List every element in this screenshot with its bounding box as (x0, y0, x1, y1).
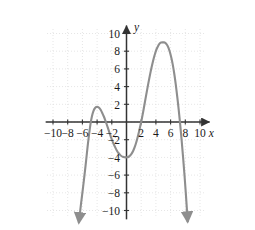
y-tick-label: −8 (108, 187, 120, 199)
curve-arrow-right (187, 213, 188, 222)
x-axis-label: x (208, 127, 215, 139)
graph-figure: −10−8−6−4−2246810108642−2−4−6−8−10 xy (0, 0, 255, 230)
coordinate-plane-plot: −10−8−6−4−2246810108642−2−4−6−8−10 xy (0, 0, 255, 230)
axis-name-labels: xy (133, 21, 215, 139)
y-tick-label: −6 (108, 169, 120, 181)
x-tick-label: 8 (182, 127, 188, 139)
x-tick-label: −10 (44, 127, 62, 139)
curve-arrow-left (79, 214, 80, 223)
x-tick-label: 4 (153, 127, 159, 139)
x-tick-label: −4 (91, 127, 103, 139)
y-tick-label: 10 (109, 28, 121, 40)
x-tick-label: 6 (168, 127, 174, 139)
y-tick-label: 6 (114, 63, 120, 75)
y-tick-label: 8 (114, 45, 120, 57)
x-tick-label: 2 (138, 127, 144, 139)
x-tick-label: −6 (76, 127, 88, 139)
y-tick-label: −4 (108, 152, 120, 164)
y-axis-label: y (133, 21, 140, 34)
x-tick-label: 10 (194, 127, 206, 139)
y-tick-label: −10 (102, 205, 120, 217)
y-tick-label: −2 (108, 134, 120, 146)
y-tick-label: 2 (114, 99, 120, 111)
x-tick-label: −8 (62, 127, 74, 139)
y-tick-label: 4 (114, 81, 120, 93)
